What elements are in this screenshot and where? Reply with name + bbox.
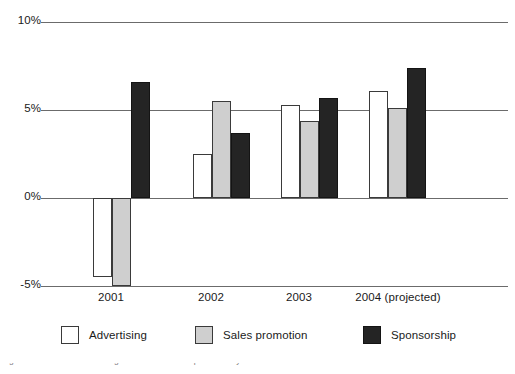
bar-2004-advertising [369,91,388,198]
legend-label-sales-promotion: Sales promotion [223,329,308,341]
x-axis-line [41,286,508,287]
legend-item-sales-promotion: Sales promotion [195,325,308,345]
y-tick-label: 0% [24,190,41,202]
bar-2001-sales-promotion [112,198,131,286]
y-tick-label: -5% [20,278,41,290]
bar-chart-figure: 10% 5% 0% -5% 2001 2002 2003 2004 (proje [0,0,515,374]
legend-swatch-icon-sales-promotion [195,326,213,344]
x-tick-label-2002: 2002 [181,291,241,303]
bar-2003-sponsorship [319,98,338,198]
legend-item-sponsorship: Sponsorship [363,325,456,345]
y-axis-tick-labels: 10% 5% 0% -5% [0,22,41,286]
bar-2001-sponsorship [131,82,150,198]
legend-label-sponsorship: Sponsorship [391,329,456,341]
legend-swatch-icon-advertising [61,326,79,344]
bar-2001-advertising [93,198,112,277]
bars-layer [53,22,508,286]
x-tick-label-2004: 2004 (projected) [343,291,453,303]
bar-2002-sales-promotion [212,101,231,198]
bar-2002-advertising [193,154,212,198]
x-axis-tick-labels: 2001 2002 2003 2004 (projected) [53,291,508,307]
legend-swatch-icon-sponsorship [363,326,381,344]
bar-2004-sales-promotion [388,108,407,198]
bar-2003-sales-promotion [300,121,319,198]
x-tick-label-2001: 2001 [81,291,141,303]
legend-label-advertising: Advertising [89,329,147,341]
y-tick-label: 5% [24,102,41,114]
figure-caption-text: Figure 1.2 Growth in marketing communica… [2,363,266,365]
figure-caption: Figure 1.2 Growth in marketing communica… [2,363,302,374]
bar-2004-sponsorship [407,68,426,198]
legend-item-advertising: Advertising [61,325,147,345]
chart-legend: Advertising Sales promotion Sponsorship [53,325,493,347]
x-tick-label-2003: 2003 [269,291,329,303]
bar-2002-sponsorship [231,133,250,198]
y-tick-label: 10% [18,14,41,26]
bar-2003-advertising [281,105,300,198]
